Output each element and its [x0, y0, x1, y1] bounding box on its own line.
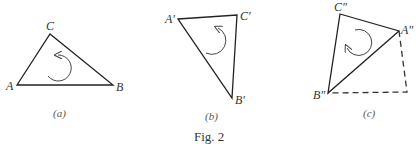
vertex-label-a: A: [5, 79, 14, 93]
panel-label-a: (a): [53, 107, 66, 120]
vertex-label-a-double-prime: A″: [400, 23, 414, 37]
vertex-label-c: C: [46, 19, 55, 33]
rotation-arrow-icon: [206, 28, 226, 54]
triangle-abc-double-prime: [328, 14, 399, 93]
panel-b: A′ C′ B′ (b): [164, 9, 251, 123]
vertex-label-a-prime: A′: [164, 12, 175, 26]
triangle-abc: [17, 34, 113, 85]
panel-a: A C B (a): [5, 19, 124, 120]
vertex-label-b: B: [116, 80, 124, 94]
dashed-extension: [328, 31, 407, 93]
vertex-label-b-double-prime: B″: [313, 88, 326, 102]
vertex-label-c-double-prime: C″: [334, 0, 348, 14]
panel-label-c: (c): [363, 107, 376, 120]
figure-canvas: A C B (a) A′ C′ B′ (b) C″ A″ B″ (c) Fig.…: [0, 0, 420, 144]
vertex-label-b-prime: B′: [235, 93, 245, 107]
panel-c: C″ A″ B″ (c): [313, 0, 414, 120]
vertex-label-c-prime: C′: [240, 9, 251, 23]
triangle-abc-prime: [178, 15, 237, 98]
panel-label-b: (b): [205, 110, 218, 123]
rotation-arrow-icon: [48, 55, 71, 81]
figure-caption: Fig. 2: [194, 129, 224, 144]
rotation-arrow-icon: [347, 29, 372, 55]
